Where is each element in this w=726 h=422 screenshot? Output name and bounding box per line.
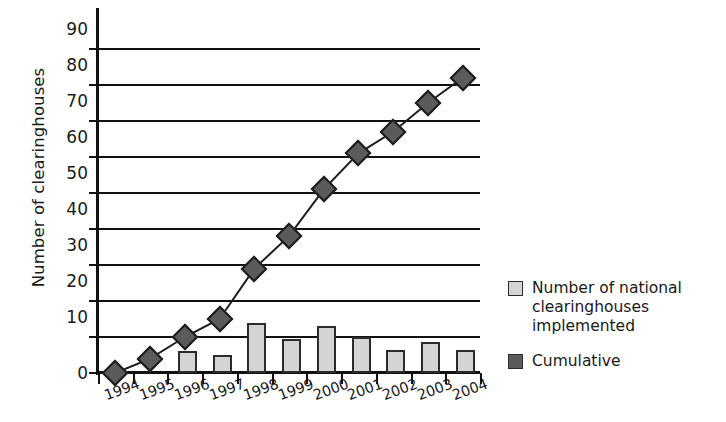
y-tick-label: 10 bbox=[44, 309, 88, 326]
legend-swatch-square-icon bbox=[508, 354, 523, 369]
y-tick-label: 40 bbox=[44, 201, 88, 218]
y-tick-label: 0 bbox=[44, 365, 88, 382]
y-tick-label: 20 bbox=[44, 273, 88, 290]
legend-label: Cumulative bbox=[532, 352, 620, 371]
legend-item-cumulative: Cumulative bbox=[508, 352, 620, 371]
y-tick-label: 60 bbox=[44, 129, 88, 146]
y-tick-label: 50 bbox=[44, 165, 88, 182]
legend-item-bars: Number of national clearinghouses implem… bbox=[508, 279, 712, 336]
chart-legend: Number of national clearinghouses implem… bbox=[508, 0, 726, 422]
plot-area: 1994199519961997199819992000200120022003… bbox=[98, 0, 480, 422]
legend-label: Number of national clearinghouses implem… bbox=[532, 279, 712, 336]
y-tick-label: 90 bbox=[44, 21, 88, 38]
y-axis-tick-labels: 90 80 70 60 50 40 30 20 10 0 bbox=[42, 0, 88, 422]
legend-swatch-square-icon bbox=[508, 281, 523, 296]
y-tick-label: 30 bbox=[44, 237, 88, 254]
chart-container: Number of clearinghouses 90 80 70 60 50 … bbox=[0, 0, 726, 422]
y-tick-label: 80 bbox=[44, 57, 88, 74]
y-tick-label: 70 bbox=[44, 93, 88, 110]
